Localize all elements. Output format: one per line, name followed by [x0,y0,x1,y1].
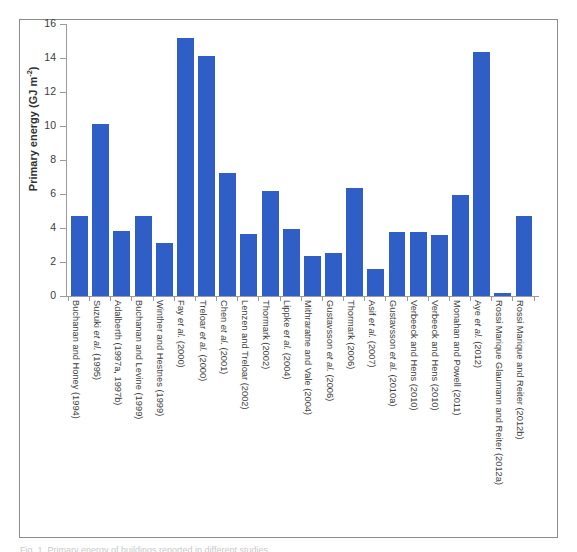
bar [516,216,533,296]
x-tick-label: Buchanan and Honey (1994) [69,300,83,510]
bar [71,216,88,296]
x-axis-labels: Buchanan and Honey (1994)Suzuki et al. (… [66,300,539,520]
x-tick-label: Aye et al. (2012) [471,300,485,510]
x-tick-label: Lippke et al. (2004) [280,300,294,510]
bar [219,173,236,296]
bar [177,38,194,296]
bar [92,124,109,296]
bar [156,243,173,296]
y-tick-label: 12 [38,85,56,97]
x-tick-label: Monahan and Powell (2011) [450,300,464,510]
bar [304,256,321,296]
figure-caption: Fig. 1. Primary energy of buildings repo… [20,545,450,552]
x-tick-label: Gustavsson et al. (2010a) [386,300,400,510]
x-tick-label: Treloar et al. (2000) [196,300,210,510]
bar [410,232,427,296]
x-tick-label: Lenzen and Treloar (2002) [238,300,252,510]
x-tick-label: Gustavsson et al. (2006) [323,300,337,510]
bar [198,56,215,296]
y-tick-label: 10 [38,119,56,131]
x-axis-line [66,296,539,297]
bar [431,235,448,296]
bar [240,234,257,296]
x-tick-label: Thormark (2002) [259,300,273,510]
bar [473,52,490,296]
x-tick-label: Chen et al. (2001) [217,300,231,510]
bar [283,229,300,296]
y-tick-mark [60,296,66,297]
x-tick-label: Fay et al. (2000) [174,300,188,510]
x-tick-label: Verbeeck and Hens (2010) [407,300,421,510]
bar [135,216,152,296]
bar [113,231,130,296]
bar [262,191,279,296]
x-tick-label: Asif et al. (2007) [365,300,379,510]
bar [325,253,342,296]
y-tick-label: 14 [38,51,56,63]
bar [452,195,469,296]
y-tick-label: 2 [38,255,56,267]
y-tick-label: 8 [38,153,56,165]
y-tick-label: 4 [38,221,56,233]
bar-series [66,24,539,296]
x-tick-label: Suzuki et al. (1995) [90,300,104,510]
x-tick-label: Rossi Marique and Reiter (2012b) [513,300,527,510]
bar [494,293,511,296]
x-tick-label: Winther and Hestnes (1999) [153,300,167,510]
y-axis-title: Primary energy (GJ m-2) [25,34,39,224]
x-tick-label: Rossi Marique Glaumann and Reiter (2012a… [492,300,506,510]
y-axis-title-tail: ) [27,66,39,70]
bar [367,269,384,296]
x-tick-label: Adalberth (1997a, 1997b) [111,300,125,510]
y-axis-title-exponent: -2 [25,70,34,77]
x-tick-label: Thormark (2006) [344,300,358,510]
y-tick-label: 0 [38,289,56,301]
x-tick-label: Mithraratne and Vale (2004) [301,300,315,510]
bar [346,188,363,296]
y-tick-label: 6 [38,187,56,199]
x-tick-label: Buchanan and Levine (1999) [132,300,146,510]
bar [389,232,406,296]
y-tick-label: 16 [38,17,56,29]
x-tick-label: Verbeeck and Hens (2010) [428,300,442,510]
